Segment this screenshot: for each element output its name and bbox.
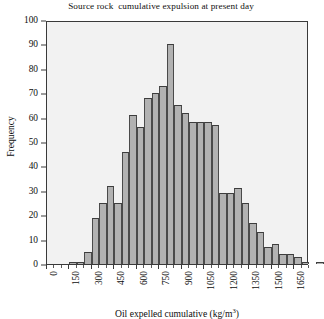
- x-axis-minor-tick: [128, 265, 129, 268]
- plot-area: [46, 21, 308, 265]
- x-axis-title-tail: ): [236, 308, 239, 319]
- x-axis-minor-tick: [308, 265, 309, 268]
- histogram-bar: [227, 193, 234, 264]
- x-axis-tick: [113, 265, 114, 269]
- x-axis-minor-tick: [76, 265, 77, 268]
- x-axis-minor-tick: [286, 265, 287, 268]
- x-axis-tick-label: 1650: [297, 271, 306, 290]
- x-axis-tick: [271, 265, 272, 269]
- x-axis-title-base: Oil expelled cumulative (kg/m: [115, 308, 233, 319]
- x-axis-tick-label: 1350: [252, 271, 261, 290]
- x-axis-tick-label: 300: [95, 271, 104, 285]
- x-axis-tick: [46, 265, 47, 269]
- histogram-bar: [316, 262, 323, 264]
- y-axis-tick-label: 70: [29, 89, 38, 98]
- y-axis-tick-label: 90: [29, 41, 38, 50]
- x-axis-minor-tick: [211, 265, 212, 268]
- y-axis-tick-label: 40: [29, 163, 38, 172]
- x-axis-tick-label: 600: [140, 271, 149, 285]
- histogram-bar: [189, 122, 196, 264]
- x-axis-tick-label: 1500: [275, 271, 284, 290]
- histogram-bar: [107, 186, 114, 264]
- x-axis-minor-tick: [241, 265, 242, 268]
- y-axis-tick-label: 20: [29, 211, 38, 220]
- x-axis-tick-label: 1050: [207, 271, 216, 290]
- x-axis-tick: [91, 265, 92, 269]
- histogram-bar: [144, 98, 151, 264]
- x-axis-tick-label: 450: [117, 271, 126, 285]
- histogram-bar: [167, 44, 174, 264]
- x-axis-tick: [181, 265, 182, 269]
- x-axis-minor-tick: [233, 265, 234, 268]
- x-axis-minor-tick: [83, 265, 84, 268]
- y-axis: Frequency 0102030405060708090100: [0, 21, 46, 265]
- histogram-bar: [114, 203, 121, 264]
- x-axis-tick-label: 750: [162, 271, 171, 285]
- x-axis: Oil expelled cumulative (kg/m3) 01503004…: [46, 265, 308, 319]
- x-axis-minor-tick: [61, 265, 62, 268]
- x-axis-tick: [68, 265, 69, 269]
- histogram-bar: [84, 252, 91, 264]
- y-axis-tick-label: 60: [29, 114, 38, 123]
- histogram-bar: [129, 115, 136, 264]
- x-axis-tick: [158, 265, 159, 269]
- histogram-bar: [294, 257, 301, 264]
- y-axis-tick-label: 100: [24, 16, 38, 25]
- x-axis-minor-tick: [301, 265, 302, 268]
- x-axis-tick: [136, 265, 137, 269]
- x-axis-tick-label: 900: [185, 271, 194, 285]
- histogram-bar: [249, 223, 256, 264]
- x-axis-minor-tick: [173, 265, 174, 268]
- histogram-bar: [137, 127, 144, 264]
- x-axis-tick: [293, 265, 294, 269]
- histogram-bar: [212, 125, 219, 264]
- histogram-bar: [197, 122, 204, 264]
- histogram-bar: [204, 122, 211, 264]
- histogram-bar: [159, 86, 166, 264]
- x-axis-tick: [226, 265, 227, 269]
- x-axis-minor-tick: [256, 265, 257, 268]
- x-axis-minor-tick: [53, 265, 54, 268]
- histogram-bar: [92, 218, 99, 264]
- x-axis-minor-tick: [278, 265, 279, 268]
- x-axis-minor-tick: [218, 265, 219, 268]
- x-axis-minor-tick: [166, 265, 167, 268]
- histogram-bar: [279, 254, 286, 264]
- histogram-bar: [257, 232, 264, 264]
- y-axis-tick-label: 30: [29, 187, 38, 196]
- histogram-bar: [219, 193, 226, 264]
- x-axis-minor-tick: [188, 265, 189, 268]
- x-axis-minor-tick: [151, 265, 152, 268]
- y-axis-tick-label: 80: [29, 65, 38, 74]
- histogram-bar: [69, 262, 76, 264]
- histogram-bar: [242, 203, 249, 264]
- x-axis-tick-label: 0: [50, 271, 59, 276]
- chart-title: Source rock cumulative expulsion at pres…: [0, 1, 322, 11]
- histogram-bar: [272, 244, 279, 264]
- histogram-bar: [99, 203, 106, 264]
- x-axis-tick: [203, 265, 204, 269]
- x-axis-tick-label: 150: [72, 271, 81, 285]
- x-axis-minor-tick: [98, 265, 99, 268]
- x-axis-minor-tick: [106, 265, 107, 268]
- y-axis-tick-label: 10: [29, 236, 38, 245]
- x-axis-minor-tick: [263, 265, 264, 268]
- x-axis-tick: [248, 265, 249, 269]
- histogram-bar: [234, 188, 241, 264]
- y-axis-tick-label: 0: [33, 260, 38, 269]
- y-axis-tick-label: 50: [29, 138, 38, 147]
- histogram-bar: [302, 262, 309, 264]
- x-axis-minor-tick: [143, 265, 144, 268]
- histogram-bar: [122, 152, 129, 264]
- histogram-bar: [174, 105, 181, 264]
- histogram-bar: [152, 93, 159, 264]
- x-axis-minor-tick: [121, 265, 122, 268]
- histogram-bar: [182, 113, 189, 264]
- histogram-bar: [264, 247, 271, 264]
- x-axis-minor-tick: [196, 265, 197, 268]
- histogram-bar: [287, 254, 294, 264]
- x-axis-tick-label: 1200: [230, 271, 239, 290]
- bars-layer: [47, 22, 307, 264]
- histogram-bar: [77, 262, 84, 264]
